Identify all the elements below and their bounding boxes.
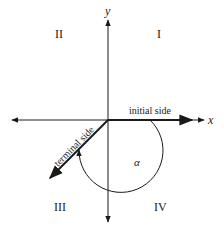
angle-diagram: y x II I III IV initial side terminal si… [0, 0, 224, 232]
x-axis-label: x [207, 113, 214, 127]
terminal-side-label: terminal side [52, 124, 97, 169]
quadrant-ii-label: II [55, 27, 63, 41]
quadrant-iv-label: IV [154, 200, 167, 214]
initial-side-label: initial side [129, 105, 172, 116]
quadrant-iii-label: III [54, 200, 66, 214]
y-axis-label: y [104, 4, 111, 18]
angle-alpha-label: α [134, 156, 140, 168]
terminal-side-ray [50, 120, 108, 178]
quadrant-i-label: I [157, 27, 161, 41]
